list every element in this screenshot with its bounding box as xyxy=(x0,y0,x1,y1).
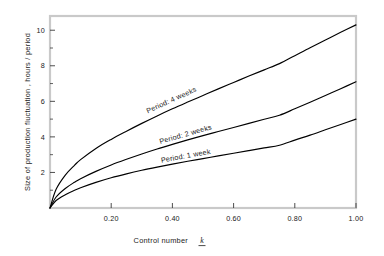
y-tick-label: 6 xyxy=(41,97,45,106)
x-axis-title: Control number xyxy=(134,236,189,245)
y-tick-label: 2 xyxy=(41,168,45,177)
x-tick-label: 0.80 xyxy=(287,214,302,223)
production-fluctuation-line-chart: 246810 0.200.400.600.801.00 Period: 4 we… xyxy=(0,0,384,256)
x-tick-label: 0.60 xyxy=(226,214,241,223)
y-axis-title: Size of production fluctuation , hours /… xyxy=(23,33,32,191)
y-tick-label: 4 xyxy=(41,133,45,142)
y-tick-label: 10 xyxy=(37,26,45,35)
x-tick-label: 0.20 xyxy=(104,214,119,223)
x-tick-label: 1.00 xyxy=(349,214,364,223)
x-axis-symbol-k: k xyxy=(200,236,204,245)
x-tick-label: 0.40 xyxy=(165,214,180,223)
chart-figure: 246810 0.200.400.600.801.00 Period: 4 we… xyxy=(0,0,384,256)
y-tick-label: 8 xyxy=(41,61,45,70)
